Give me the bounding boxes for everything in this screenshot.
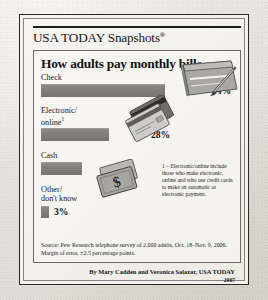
bar-label-cash: Cash: [41, 151, 57, 160]
bar-value-check: 54%: [212, 85, 231, 96]
bar-value-other: 3%: [54, 206, 68, 217]
brand-title: USA TODAY Snapshots®: [33, 30, 245, 46]
footnote-marker-icon: 1: [61, 116, 64, 122]
bar-value-electronic: 28%: [151, 129, 170, 140]
bar-label-electronic-text: Electronic/ online: [41, 106, 77, 127]
bar-label-electronic: Electronic/ online1: [41, 106, 77, 128]
chart-title: How adults pay monthly bills: [41, 56, 237, 72]
chart-footnote: 1 – Electronic/online include those who …: [162, 163, 237, 198]
registered-trademark-icon: ®: [160, 31, 165, 39]
byline-year: 2007: [35, 276, 235, 284]
snapshot-card-inner-border: USA TODAY Snapshots® How adults pay mont…: [23, 18, 245, 281]
bar-chart: Check 54% Electronic/ online1 28% Cash: [34, 73, 242, 238]
brand-rule-divider: [33, 26, 241, 28]
bar-value-cash: 15%: [110, 163, 129, 174]
byline-credit: By Mary Cadden and Veronica Salazar, USA…: [89, 268, 235, 275]
bar-fill-electronic: [41, 128, 109, 141]
snapshot-page: USA TODAY Snapshots® How adults pay mont…: [0, 0, 268, 300]
brand-title-text: USA TODAY Snapshots: [33, 30, 160, 45]
bar-fill-check: [41, 84, 165, 97]
bar-label-other: Other/ don't know: [41, 185, 77, 204]
snapshot-card: USA TODAY Snapshots® How adults pay mont…: [19, 14, 249, 285]
bar-fill-cash: [41, 162, 82, 175]
chart-panel: How adults pay monthly bills Check 54% E…: [33, 50, 241, 263]
bar-label-check: Check: [41, 73, 62, 82]
chart-source: Source: Pew Research telephone survey of…: [41, 242, 237, 257]
credit-cards-icon: [119, 95, 181, 143]
byline: By Mary Cadden and Veronica Salazar, USA…: [35, 268, 235, 284]
svg-text:$: $: [111, 173, 123, 191]
bar-fill-other: [41, 206, 49, 218]
